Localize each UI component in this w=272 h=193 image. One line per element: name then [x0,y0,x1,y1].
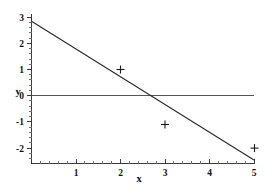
y-tick-label-1: 1 [19,65,24,75]
x-axis-label: x [136,173,142,184]
x-tick-label-4: 4 [207,168,212,178]
chart-figure: 3 2 1 0 -1 -2 1 2 3 4 5 y x [0,0,272,193]
data-point-marker [251,144,259,152]
y-tick-label-2: 2 [19,39,24,49]
x-tick-label-3: 3 [163,168,168,178]
data-point-marker [161,121,169,129]
y-tick-label-3: 3 [19,13,24,23]
y-tick-label-neg1: -1 [16,117,24,127]
y-axis-major-ticks [27,17,32,148]
x-tick-label-1: 1 [74,168,79,178]
chart-canvas: 3 2 1 0 -1 -2 1 2 3 4 5 y x [0,0,272,193]
fitted-line [32,21,255,160]
x-tick-label-5: 5 [252,168,257,178]
y-tick-label-neg2: -2 [16,144,24,154]
y-axis-label: y [15,86,21,97]
x-tick-label-2: 2 [118,168,123,178]
data-point-marker [117,66,125,74]
